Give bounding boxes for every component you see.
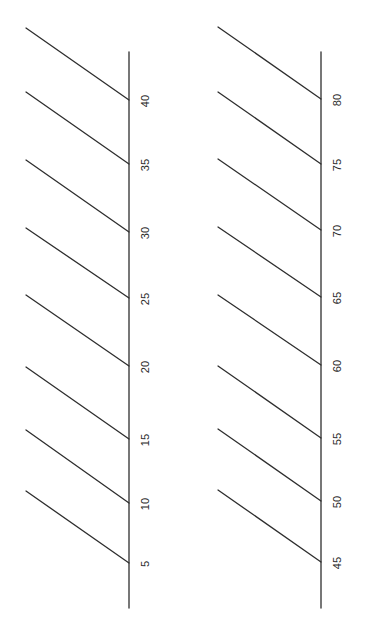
number-line-diagram: 4035302520151058075706560555045 [0,0,365,637]
slanted-writing-line [26,228,129,298]
slanted-writing-line [26,28,129,100]
slanted-writing-line [26,160,129,232]
tick-label: 45 [331,557,343,569]
tick-label: 30 [139,227,151,239]
slanted-writing-line [26,491,129,563]
slanted-writing-line [218,92,321,164]
tick-label: 70 [331,225,343,237]
left-scale: 403530252015105 [26,28,151,608]
tick-label: 55 [331,433,343,445]
tick-label: 50 [331,496,343,508]
tick-label: 20 [139,361,151,373]
tick-label: 35 [139,159,151,171]
slanted-writing-line [218,490,321,562]
slanted-writing-line [26,367,129,439]
slanted-writing-line [218,227,321,297]
tick-label: 60 [331,360,343,372]
tick-label: 40 [139,95,151,107]
tick-label: 65 [331,292,343,304]
slanted-writing-line [218,27,321,99]
tick-label: 75 [331,159,343,171]
slanted-writing-line [26,92,129,164]
right-scale: 8075706560555045 [218,27,343,608]
slanted-writing-line [26,295,129,366]
tick-label: 25 [139,293,151,305]
tick-label: 80 [331,94,343,106]
scale-columns: 4035302520151058075706560555045 [26,27,343,608]
tick-label: 15 [139,434,151,446]
slanted-writing-line [218,159,321,230]
slanted-writing-line [218,295,321,365]
tick-label: 5 [139,561,151,567]
slanted-writing-line [26,430,129,503]
slanted-writing-line [218,366,321,438]
tick-label: 10 [139,498,151,510]
slanted-writing-line [218,429,321,501]
